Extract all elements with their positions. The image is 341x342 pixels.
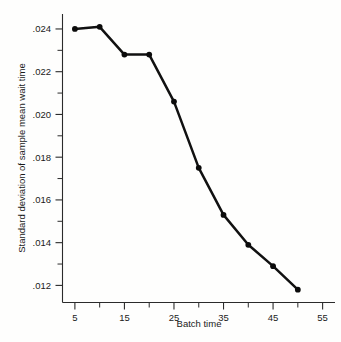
x-tick-label: 45 xyxy=(268,312,279,323)
data-point-marker xyxy=(72,26,78,32)
data-point-marker xyxy=(196,165,202,171)
data-point-marker xyxy=(295,287,301,293)
chart-figure: .024.022.020.018.016.014.012 51525354555… xyxy=(0,0,341,342)
y-tick-label: .014 xyxy=(33,237,52,248)
y-tick-label: .012 xyxy=(33,280,52,291)
data-series-line xyxy=(75,27,298,290)
data-point-marker xyxy=(97,24,103,30)
x-axis-minor-ticks xyxy=(100,303,298,308)
data-point-marker xyxy=(270,263,276,269)
y-tick-label: .018 xyxy=(33,152,52,163)
data-point-marker xyxy=(221,212,227,218)
y-axis-title: Standard deviation of sample mean wait t… xyxy=(16,63,27,253)
data-point-marker xyxy=(171,99,177,105)
x-tick-label: 15 xyxy=(119,312,130,323)
y-axis-tick-labels: .024.022.020.018.016.014.012 xyxy=(33,23,52,290)
y-tick-label: .016 xyxy=(33,194,52,205)
y-tick-label: .024 xyxy=(33,23,52,34)
y-tick-label: .020 xyxy=(33,109,52,120)
data-point-markers xyxy=(72,24,301,293)
y-axis-major-ticks xyxy=(56,29,63,285)
data-point-marker xyxy=(146,52,152,58)
data-point-marker xyxy=(122,52,128,58)
x-tick-label: 55 xyxy=(317,312,328,323)
y-tick-label: .022 xyxy=(33,66,52,77)
y-axis-group: .024.022.020.018.016.014.012 xyxy=(33,14,63,303)
data-point-marker xyxy=(245,242,251,248)
x-tick-label: 5 xyxy=(72,312,77,323)
line-chart-canvas: .024.022.020.018.016.014.012 51525354555… xyxy=(0,0,341,342)
x-axis-title: Batch time xyxy=(177,318,222,329)
